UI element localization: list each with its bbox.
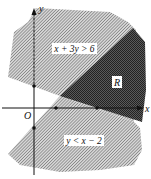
inequality-diagram: x + 3y > 6 R y < x − 2 y x O <box>0 0 151 179</box>
x-axis-label: x <box>144 103 150 114</box>
origin-label: O <box>24 110 31 121</box>
point-x-2 <box>54 106 58 110</box>
region-lower-label: y < x − 2 <box>65 136 102 146</box>
point-x-6 <box>95 106 99 110</box>
point-y-2 <box>32 84 36 88</box>
point-y-neg2 <box>32 126 36 130</box>
y-axis-label: y <box>38 3 44 14</box>
region-R-label: R <box>113 77 120 88</box>
region-upper-label: x + 3y > 6 <box>53 44 95 54</box>
